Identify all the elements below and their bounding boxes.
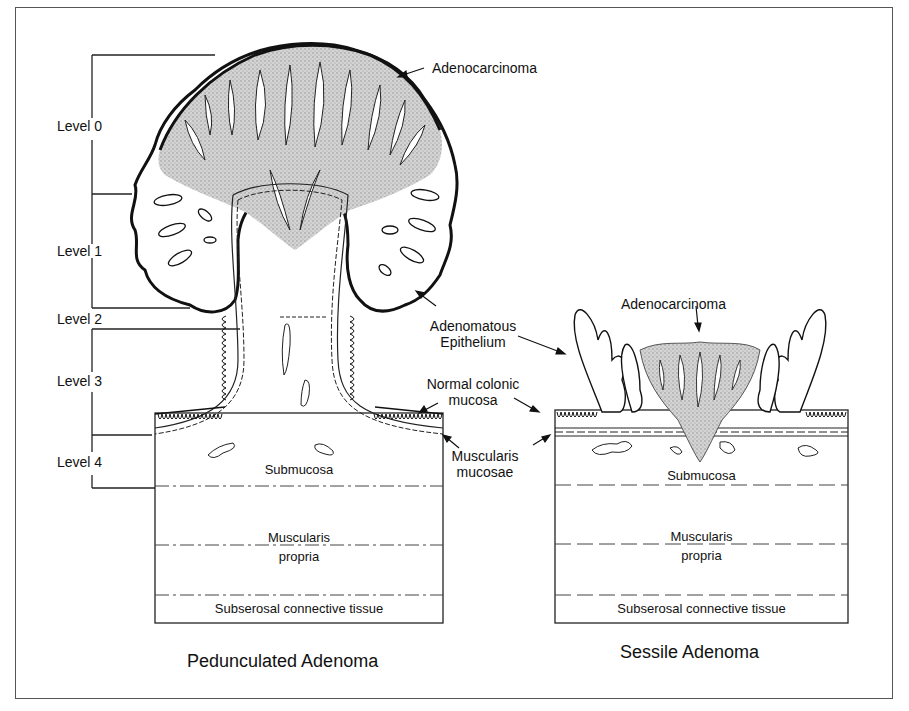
sessile-adenocarcinoma-label: Adenocarcinoma [621, 296, 726, 312]
level-1-label: Level 1 [57, 243, 102, 259]
pedunculated-adenoma-title: Pedunculated Adenoma [187, 651, 378, 672]
pedunculated-propria-label: propria [155, 549, 443, 565]
sessile-submucosa-label: Submucosa [555, 468, 848, 484]
sessile-muscularis-label: Muscularis [555, 529, 848, 545]
sessile-adenoma-title: Sessile Adenoma [620, 642, 759, 663]
level-4-label: Level 4 [57, 454, 102, 470]
sessile-adenoma-drawing [555, 310, 848, 623]
pedunculated-submucosa-label: Submucosa [155, 462, 443, 478]
normal-colonic-mucosa-label: Normal colonic mucosa [418, 376, 528, 408]
muscularis-mucosae-label: Muscularis mucosae [440, 448, 530, 480]
pedunculated-subserosal-label: Subserosal connective tissue [155, 601, 443, 617]
pedunculated-muscularis-label: Muscularis [155, 530, 443, 546]
level-0-label: Level 0 [57, 118, 102, 134]
sessile-subserosal-label: Subserosal connective tissue [555, 601, 848, 617]
level-3-label: Level 3 [57, 373, 102, 389]
adenomatous-epithelium-label: Adenomatous Epithelium [418, 318, 528, 350]
level-2-label: Level 2 [57, 311, 102, 327]
sessile-propria-label: propria [555, 548, 848, 564]
pedunculated-adenocarcinoma-label: Adenocarcinoma [432, 60, 537, 76]
